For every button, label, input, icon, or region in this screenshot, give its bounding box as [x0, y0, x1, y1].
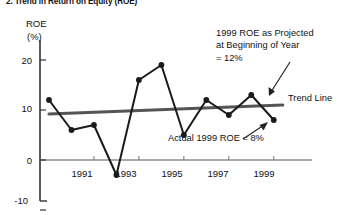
plot-canvas: [0, 0, 355, 215]
data-point-1996: [203, 97, 209, 103]
y-tick-marks: [40, 60, 46, 210]
chart-figure: 2. Trend in Return on Equity (ROE) ROE (…: [0, 0, 355, 215]
trend-line-series: [49, 105, 283, 114]
actual-callout-arrow-shaft: [243, 125, 264, 139]
projected-callout-arrow-head: [269, 87, 276, 96]
data-point-1997: [226, 112, 232, 118]
data-point-1994: [158, 62, 164, 68]
actual-callout-arrow-head: [260, 122, 269, 131]
data-point-1992: [114, 172, 120, 178]
data-point-1989: [46, 97, 52, 103]
data-point-1999: [271, 117, 277, 123]
data-point-1995: [181, 132, 187, 138]
callout-arrows: [243, 62, 290, 139]
data-point-1991: [91, 122, 97, 128]
data-point-1993: [136, 77, 142, 83]
actual-roe-series: [49, 65, 274, 175]
projected-callout-arrow-shaft: [271, 62, 290, 92]
data-point-1998: [248, 92, 254, 98]
axes-group: [40, 40, 312, 210]
data-point-1990: [69, 127, 75, 133]
